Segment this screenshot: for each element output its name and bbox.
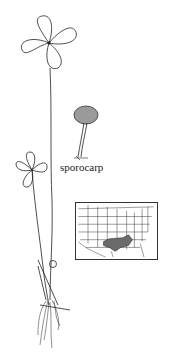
lower-leaf [16,152,47,187]
roots [38,300,60,348]
upper-petiole [50,68,52,300]
plant-illustration [0,0,171,352]
sporocarp-label: sporocarp [60,161,103,173]
lower-petiole [32,170,49,305]
upper-leaf [21,16,76,69]
basal-sporocarp [50,261,57,268]
highlighted-range [103,235,132,251]
distribution-map [75,202,158,260]
sporocarp-detail [74,106,98,160]
